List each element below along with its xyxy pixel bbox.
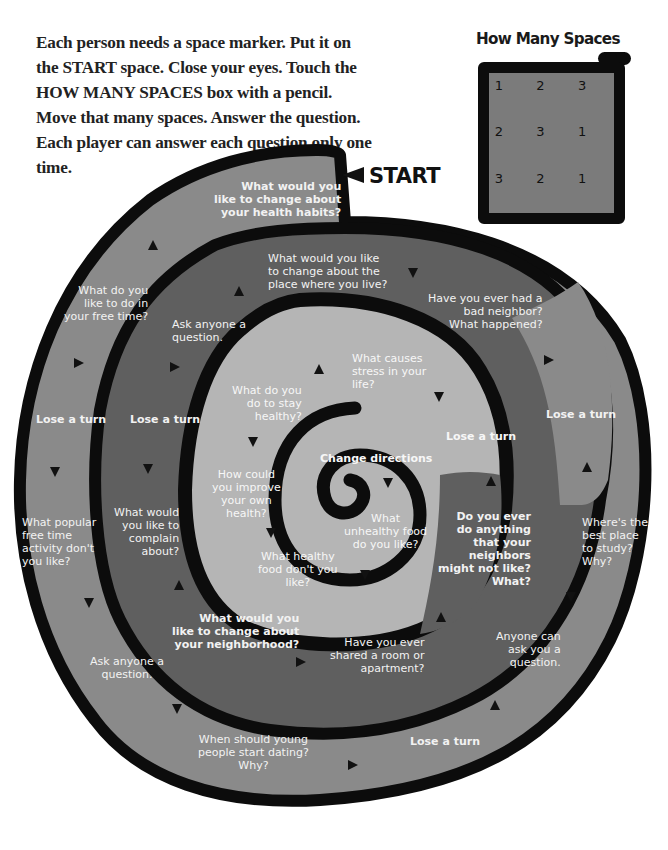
direction-arrow-icon [148, 240, 158, 250]
board-space[interactable]: Anyone can ask you a question. [496, 630, 561, 669]
board-space[interactable]: Lose a turn [36, 413, 106, 426]
direction-arrow-icon [582, 462, 592, 472]
direction-arrow-icon [544, 355, 554, 365]
direction-arrow-icon [314, 364, 324, 374]
board-space[interactable]: What would you like to change about your… [214, 180, 341, 219]
board-space[interactable]: Lose a turn [130, 413, 200, 426]
board-space-center[interactable]: Change directions [320, 452, 432, 465]
direction-arrow-icon [266, 528, 276, 538]
direction-arrow-icon [143, 464, 153, 474]
direction-arrow-icon [234, 286, 244, 296]
board-space[interactable]: What would you like to change about the … [268, 252, 387, 291]
board-space[interactable]: Do you ever do anything that your neighb… [438, 510, 531, 588]
direction-arrow-icon [408, 268, 418, 278]
board-space[interactable]: What healthy food don't you like? [258, 550, 338, 589]
board-space[interactable]: When should young people start dating? W… [198, 733, 309, 772]
direction-arrow-icon [170, 362, 180, 372]
direction-arrow-icon [486, 476, 496, 486]
board-space[interactable]: Lose a turn [546, 408, 616, 421]
left-pointer-arrow-icon [342, 167, 364, 183]
board-space[interactable]: Ask anyone a question. [172, 318, 246, 344]
start-label: START [369, 164, 440, 188]
board-space[interactable]: Lose a turn [410, 735, 480, 748]
direction-arrow-icon [74, 358, 84, 368]
direction-arrow-icon [360, 570, 370, 580]
board-space[interactable]: What would you like to change about your… [172, 612, 299, 651]
board-space[interactable]: What do you like to do in your free time… [64, 284, 148, 323]
direction-arrow-icon [248, 437, 258, 447]
direction-arrow-icon [434, 392, 444, 402]
direction-arrow-icon [566, 592, 576, 602]
start-marker: START [342, 164, 440, 188]
board-space[interactable]: Have you ever had a bad neighbor? What h… [428, 292, 543, 331]
board-space[interactable]: What unhealthy food do you like? [344, 512, 427, 551]
board-space[interactable]: Where's the best place to study? Why? [582, 516, 648, 568]
board-space[interactable]: Lose a turn [446, 430, 516, 443]
direction-arrow-icon [296, 657, 306, 667]
direction-arrow-icon [348, 760, 358, 770]
direction-arrow-icon [383, 478, 393, 488]
direction-arrow-icon [50, 467, 60, 477]
direction-arrow-icon [172, 704, 182, 714]
direction-arrow-icon [436, 612, 446, 622]
board-space[interactable]: How could you improve your own health? [212, 468, 281, 520]
board-space[interactable]: Have you ever shared a room or apartment… [330, 636, 424, 675]
board-space[interactable]: What do you do to stay healthy? [232, 384, 302, 423]
board-space[interactable]: What causes stress in your life? [352, 352, 426, 391]
board-space[interactable]: Ask anyone a question. [90, 655, 164, 681]
direction-arrow-icon [84, 598, 94, 608]
board-space[interactable]: What popular free time activity don't yo… [22, 516, 96, 568]
direction-arrow-icon [174, 580, 184, 590]
direction-arrow-icon [490, 700, 500, 710]
board-space[interactable]: What would you like to complain about? [114, 506, 179, 558]
